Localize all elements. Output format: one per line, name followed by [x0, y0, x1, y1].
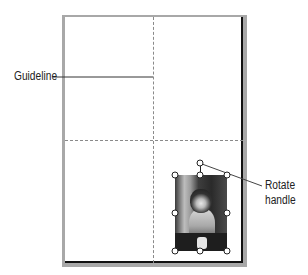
rotate-handle-label-line2: handle — [265, 193, 296, 208]
resize-handle-bottom-left[interactable] — [172, 248, 179, 255]
resize-handle-bottom-right[interactable] — [224, 248, 231, 255]
rotate-handle[interactable] — [197, 160, 204, 167]
callout-lines — [0, 0, 308, 275]
resize-handle-bottom-center[interactable] — [197, 248, 204, 255]
resize-handle-top-left[interactable] — [172, 172, 179, 179]
resize-handle-top-center[interactable] — [197, 172, 204, 179]
guideline-label: Guideline — [14, 69, 57, 84]
rotate-handle-label-line1: Rotate — [265, 178, 295, 193]
resize-handle-middle-right[interactable] — [224, 210, 231, 217]
resize-handle-middle-left[interactable] — [172, 210, 179, 217]
rotate-callout-line — [202, 164, 262, 186]
resize-handle-top-right[interactable] — [224, 172, 231, 179]
